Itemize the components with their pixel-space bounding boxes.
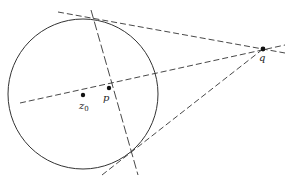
label-z0: z0 <box>78 100 89 113</box>
polar-line <box>91 10 138 175</box>
tangent-line-bottom <box>102 49 263 175</box>
center-line <box>20 45 285 103</box>
label-p: p <box>103 92 110 103</box>
label-q: q <box>259 52 265 63</box>
geometry-diagram: z0 p q <box>0 0 295 179</box>
point-p <box>107 86 111 90</box>
point-q <box>261 47 266 52</box>
tangent-line-top <box>58 12 285 53</box>
point-z0 <box>81 93 85 97</box>
